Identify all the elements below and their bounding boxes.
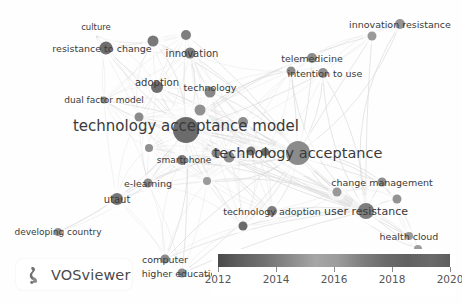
node-innovation-resistance[interactable] bbox=[395, 19, 405, 29]
node-aux7[interactable] bbox=[239, 222, 248, 231]
node-technology-acceptance-model[interactable] bbox=[173, 117, 199, 143]
edge bbox=[243, 211, 366, 226]
edge bbox=[366, 36, 372, 211]
node-aux6[interactable] bbox=[203, 177, 211, 185]
node-aux9[interactable] bbox=[393, 195, 402, 204]
legend-tick-label: 2016 bbox=[321, 273, 348, 285]
edge bbox=[323, 24, 400, 73]
node-aux12[interactable] bbox=[287, 67, 296, 76]
node-aux1[interactable] bbox=[247, 147, 256, 156]
edge bbox=[243, 71, 291, 122]
node-technology-acceptance[interactable] bbox=[286, 141, 310, 165]
edge bbox=[243, 58, 312, 122]
node-aux4[interactable] bbox=[135, 113, 144, 122]
legend-tick bbox=[450, 267, 451, 272]
color-scale-legend: 20122014201620182020 bbox=[212, 249, 456, 297]
node-developing-country[interactable] bbox=[54, 228, 62, 236]
legend-gradient-bar bbox=[218, 254, 450, 267]
node-utaut[interactable] bbox=[111, 193, 123, 205]
node-dual-factor-model[interactable] bbox=[101, 97, 108, 104]
vosviewer-network-canvas[interactable]: cultureresistance to changeinnovationado… bbox=[0, 0, 462, 304]
legend-tick-label: 2018 bbox=[379, 273, 406, 285]
edge bbox=[298, 24, 400, 153]
vosviewer-logo-icon bbox=[23, 263, 47, 287]
legend-tick-label: 2020 bbox=[437, 273, 462, 285]
node-intention-to-use[interactable] bbox=[318, 68, 328, 78]
edge bbox=[104, 100, 117, 199]
node-aux3[interactable] bbox=[195, 105, 206, 116]
edge bbox=[148, 183, 243, 226]
node-computer[interactable] bbox=[161, 255, 170, 264]
node-adoption[interactable] bbox=[151, 81, 163, 93]
legend-tick bbox=[334, 267, 335, 272]
node-node-b[interactable] bbox=[181, 30, 191, 40]
edge-layer bbox=[58, 24, 418, 273]
node-resistance-to-change[interactable] bbox=[100, 42, 113, 55]
legend-tick-label: 2012 bbox=[205, 273, 232, 285]
node-aux8[interactable] bbox=[333, 188, 342, 197]
legend-tick bbox=[392, 267, 393, 272]
node-technology[interactable] bbox=[205, 87, 216, 98]
node-smartphone[interactable] bbox=[177, 155, 187, 165]
node-aux11[interactable] bbox=[368, 32, 377, 41]
node-innovation[interactable] bbox=[185, 48, 196, 59]
node-aux0[interactable] bbox=[224, 152, 235, 163]
vosviewer-watermark: VOSviewer bbox=[16, 259, 132, 290]
node-aux5[interactable] bbox=[145, 144, 153, 152]
node-node-a[interactable] bbox=[148, 36, 159, 47]
legend-tick bbox=[276, 267, 277, 272]
legend-tick bbox=[218, 267, 219, 272]
node-aux14[interactable] bbox=[212, 149, 221, 158]
legend-tick-label: 2014 bbox=[263, 273, 290, 285]
node-user-resistance[interactable] bbox=[358, 203, 374, 219]
node-aux13[interactable] bbox=[238, 117, 248, 127]
node-technology-adoption[interactable] bbox=[267, 206, 277, 216]
node-health-cloud[interactable] bbox=[405, 232, 413, 240]
node-aux2[interactable] bbox=[261, 148, 269, 156]
node-e-learning[interactable] bbox=[144, 179, 153, 188]
vosviewer-watermark-label: VOSviewer bbox=[51, 267, 130, 283]
node-higher-education[interactable] bbox=[178, 269, 187, 278]
node-telemedicine[interactable] bbox=[307, 53, 317, 63]
node-change-management[interactable] bbox=[378, 178, 387, 187]
